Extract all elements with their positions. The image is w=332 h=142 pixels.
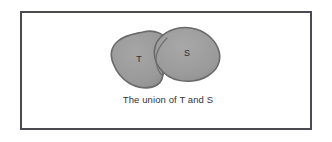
set-t-label: T <box>136 54 142 64</box>
figure-frame: T S The union of T and S <box>20 11 312 130</box>
venn-diagram-stage: T S The union of T and S <box>22 13 314 132</box>
venn-union-diagram: T S <box>107 26 225 96</box>
figure-root: T S The union of T and S <box>0 0 332 142</box>
set-s-label: S <box>184 48 190 58</box>
figure-caption: The union of T and S <box>22 94 314 105</box>
